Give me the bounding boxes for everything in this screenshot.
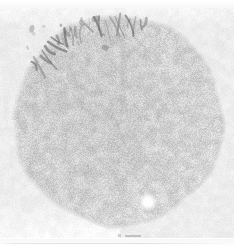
baseline-rule bbox=[0, 243, 234, 244]
micrograph-image bbox=[0, 0, 234, 247]
micrograph-figure: Grayscale micrograph of circular specime… bbox=[0, 0, 234, 247]
